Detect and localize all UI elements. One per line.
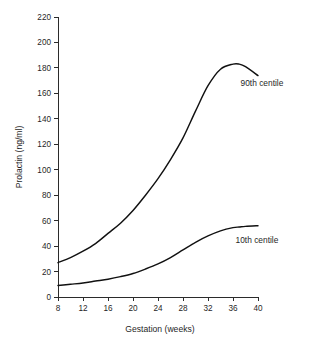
y-tick-label-20: 20: [42, 268, 52, 277]
series-label-10th-centile: 10th centile: [236, 235, 279, 245]
y-tick-label-180: 180: [37, 64, 51, 73]
x-tick-label-24: 24: [153, 304, 163, 313]
x-axis-tick-labels: 81216202428323640: [56, 304, 263, 313]
x-tick-label-32: 32: [203, 304, 213, 313]
x-tick-label-28: 28: [178, 304, 188, 313]
x-tick-label-36: 36: [228, 304, 238, 313]
x-axis-title: Gestation (weeks): [125, 324, 194, 334]
y-tick-label-120: 120: [37, 140, 51, 149]
y-tick-label-140: 140: [37, 115, 51, 124]
y-tick-label-160: 160: [37, 89, 51, 98]
x-tick-label-20: 20: [128, 304, 138, 313]
y-tick-label-60: 60: [42, 217, 52, 226]
y-tick-label-40: 40: [42, 242, 52, 251]
y-axis-title: Prolactin (ng/ml): [14, 126, 24, 189]
y-tick-label-220: 220: [37, 13, 51, 22]
series-label-90th-centile: 90th centile: [241, 78, 284, 88]
x-tick-label-12: 12: [78, 304, 88, 313]
x-tick-label-16: 16: [103, 304, 113, 313]
x-tick-label-40: 40: [253, 304, 263, 313]
y-tick-label-80: 80: [42, 191, 52, 200]
prolactin-gestation-chart: 020406080100120140160180200220 812162024…: [0, 0, 310, 341]
x-tick-label-8: 8: [56, 304, 61, 313]
y-tick-label-200: 200: [37, 38, 51, 47]
y-tick-label-0: 0: [46, 293, 51, 302]
y-tick-label-100: 100: [37, 166, 51, 175]
chart-canvas: 020406080100120140160180200220 812162024…: [0, 0, 310, 341]
